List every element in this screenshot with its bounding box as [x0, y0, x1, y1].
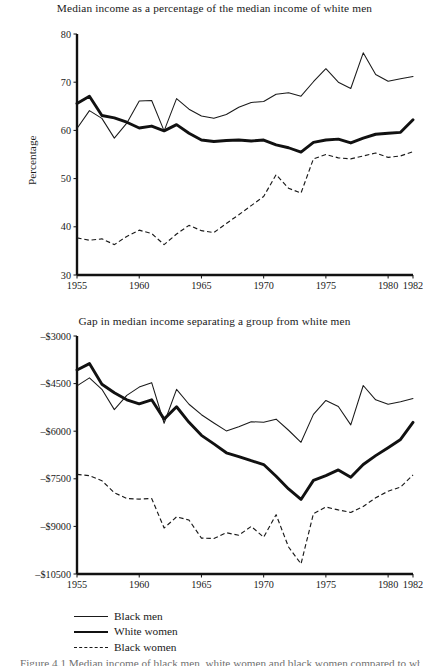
- series-line-white-women: [77, 364, 413, 500]
- series-line-black-women: [77, 474, 413, 563]
- x-tick-label: 1982: [403, 280, 423, 291]
- x-tick-label: 1960: [129, 579, 149, 590]
- legend-label: Black men: [114, 610, 163, 622]
- x-tick-label: 1960: [129, 280, 149, 291]
- x-tick-label: 1975: [316, 579, 336, 590]
- y-tick-label: –$10500: [34, 569, 71, 580]
- x-tick-label: 1980: [378, 280, 398, 291]
- x-tick-label: 1975: [316, 280, 336, 291]
- series-line-black-women: [77, 152, 413, 245]
- figure-caption: Figure 4.1 Median income of black men, w…: [20, 657, 420, 666]
- legend-line-thin-icon: [74, 610, 108, 622]
- series-line-black-men: [77, 53, 413, 138]
- x-tick-label: 1970: [253, 280, 273, 291]
- y-tick-label: 40: [61, 221, 71, 232]
- y-tick-label: –$7500: [39, 473, 71, 484]
- y-tick-label: 80: [61, 29, 71, 40]
- panel-top-plot: 3040506070801955196019651970197519801982: [0, 0, 429, 305]
- x-tick-label: 1965: [191, 280, 211, 291]
- x-tick-label: 1982: [403, 579, 423, 590]
- figure-container: Median income as a percentage of the med…: [0, 0, 429, 666]
- x-tick-label: 1980: [378, 579, 398, 590]
- x-tick-label: 1955: [67, 280, 87, 291]
- chart-panel-top: Median income as a percentage of the med…: [0, 0, 429, 305]
- legend-label: White women: [114, 625, 178, 637]
- y-tick-label: –$3000: [39, 331, 71, 342]
- y-tick-label: 30: [61, 270, 71, 281]
- chart-panel-bottom: Gap in median income separating a group …: [0, 312, 429, 604]
- legend-line-dashed-icon: [74, 641, 108, 653]
- series-line-black-men: [77, 378, 413, 442]
- x-tick-label: 1965: [191, 579, 211, 590]
- y-tick-label: –$4500: [39, 378, 71, 389]
- panel-bottom-plot: –$10500–$9000–$7500–$6000–$4500–$3000195…: [0, 312, 429, 604]
- legend: Black men White women Black women: [74, 608, 324, 655]
- y-tick-label: 70: [61, 77, 71, 88]
- y-tick-label: 60: [61, 125, 71, 136]
- legend-item-black-men: Black men: [74, 608, 324, 624]
- x-tick-label: 1970: [253, 579, 273, 590]
- legend-item-white-women: White women: [74, 624, 324, 640]
- y-tick-label: –$6000: [39, 426, 71, 437]
- legend-line-thick-icon: [74, 625, 108, 637]
- legend-label: Black women: [114, 641, 176, 653]
- y-tick-label: –$9000: [39, 521, 71, 532]
- legend-item-black-women: Black women: [74, 639, 324, 655]
- y-tick-label: 50: [61, 173, 71, 184]
- x-tick-label: 1955: [67, 579, 87, 590]
